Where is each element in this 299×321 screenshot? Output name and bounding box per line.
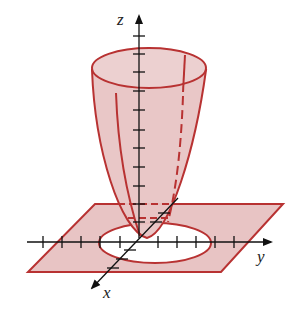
cup-rim	[92, 48, 206, 88]
diagram-canvas: z y x	[0, 0, 299, 321]
z-axis-label: z	[116, 10, 124, 29]
y-axis-label: y	[255, 247, 265, 266]
x-axis-label: x	[102, 283, 111, 302]
